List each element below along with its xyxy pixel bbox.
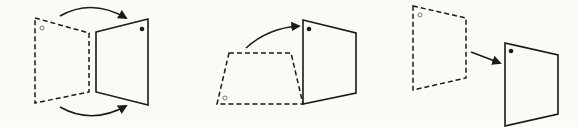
- source-panel-shape: [413, 6, 466, 90]
- figure-translate: [413, 6, 558, 126]
- source-panel-shape: [217, 53, 303, 104]
- figure-rotate-about-bottom-edge: [217, 20, 356, 104]
- target-panel-shape: [303, 20, 356, 104]
- figure-rotate-about-vertical-edge: [35, 7, 148, 115]
- target-panel-shape: [505, 43, 558, 126]
- diagram-canvas: [0, 0, 577, 127]
- arrow-icon: [471, 52, 500, 63]
- target-panel-shape: [96, 19, 148, 105]
- hollow-dot-icon: [40, 26, 44, 30]
- arrow-icon: [60, 106, 126, 116]
- filled-dot-icon: [509, 49, 514, 54]
- figures-group: [35, 6, 558, 126]
- hollow-dot-icon: [418, 13, 422, 17]
- filled-dot-icon: [140, 27, 145, 32]
- hollow-dot-icon: [223, 96, 227, 100]
- arrow-icon: [246, 26, 299, 48]
- filled-dot-icon: [307, 27, 312, 32]
- source-panel-shape: [35, 18, 89, 103]
- arrow-icon: [60, 7, 126, 18]
